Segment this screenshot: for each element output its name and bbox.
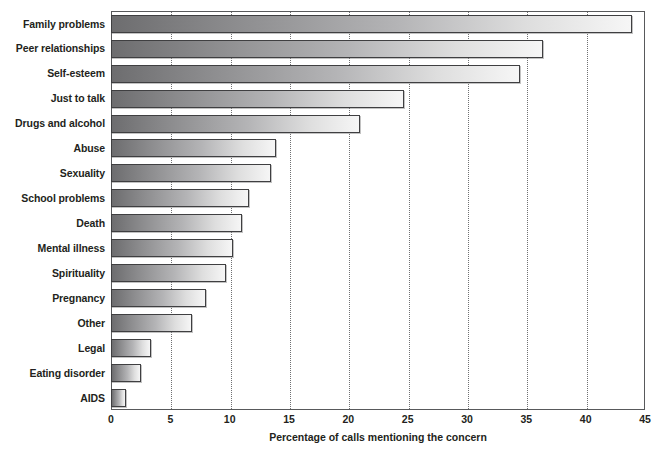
x-tick-label: 45 [639,413,651,425]
bar [111,15,632,33]
bar-row [111,186,645,211]
category-label: Self-esteem [0,67,105,79]
x-axis-title: Percentage of calls mentioning the conce… [111,431,645,443]
x-tick-label: 5 [167,413,173,425]
bar [111,339,151,357]
category-label: Eating disorder [0,367,105,379]
category-label: Pregnancy [0,292,105,304]
bar-row [111,211,645,236]
bar [111,314,192,332]
category-label: School problems [0,192,105,204]
bar [111,264,226,282]
bar-row [111,61,645,86]
bar [111,40,543,58]
bar-row [111,136,645,161]
bar-row [111,336,645,361]
bar-row [111,311,645,336]
category-label: Drugs and alcohol [0,117,105,129]
bar [111,289,206,307]
x-tick-label: 35 [520,413,532,425]
x-tick-label: 15 [283,413,295,425]
x-axis-tick-labels: 051015202530354045 [0,413,665,429]
bar-row [111,86,645,111]
bar [111,90,404,108]
bar [111,164,271,182]
category-label: Mental illness [0,242,105,254]
bar [111,189,249,207]
bar [111,364,141,382]
category-label: Legal [0,342,105,354]
x-tick-label: 30 [461,413,473,425]
category-axis-labels: Family problemsPeer relationshipsSelf-es… [0,11,105,410]
bar-row [111,261,645,286]
x-tick-label: 20 [342,413,354,425]
category-label: Other [0,317,105,329]
bar [111,115,360,133]
bars-container [111,11,645,410]
category-label: AIDS [0,392,105,404]
category-label: Peer relationships [0,42,105,54]
x-tick-label: 10 [224,413,236,425]
bar [111,214,242,232]
bar [111,65,520,83]
category-label: Just to talk [0,92,105,104]
bar [111,239,233,257]
category-label: Family problems [0,18,105,30]
bar-chart: Family problemsPeer relationshipsSelf-es… [0,0,665,466]
category-label: Spirituality [0,267,105,279]
category-label: Death [0,217,105,229]
bar-row [111,236,645,261]
bar [111,389,126,407]
bar-row [111,111,645,136]
category-label: Abuse [0,142,105,154]
bar-row [111,12,645,37]
category-label: Sexuality [0,167,105,179]
bar-row [111,161,645,186]
bar-row [111,386,645,411]
bar [111,139,276,157]
bar-row [111,286,645,311]
bar-row [111,361,645,386]
bar-row [111,36,645,61]
x-tick-label: 0 [108,413,114,425]
x-tick-label: 25 [402,413,414,425]
x-tick-label: 40 [580,413,592,425]
